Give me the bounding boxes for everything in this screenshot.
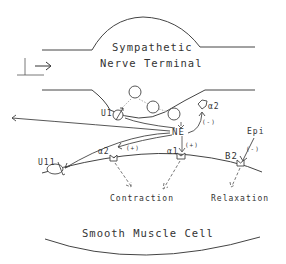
diagram-canvas [0, 0, 286, 264]
uptake1-carrier-icon [113, 110, 123, 120]
contraction-label: Contraction [110, 194, 174, 203]
smooth-muscle-title: Smooth Muscle Cell [82, 227, 214, 239]
alpha2-post-label: α2 [98, 147, 110, 156]
beta2-label: B2 [225, 151, 238, 161]
ne-vesicle-icon [168, 108, 180, 120]
presynaptic-alpha2-label: α2 [208, 102, 220, 111]
smooth-muscle-bottom-outline [45, 237, 260, 255]
relaxation-label: Relaxation [211, 194, 269, 203]
nerve-terminal-title: Sympathetic [112, 41, 193, 53]
ne-vesicle-icon [147, 101, 159, 113]
ne-vesicle-icon [129, 86, 141, 98]
alpha1-label: α1 [167, 147, 179, 156]
alpha1-effect: (+) [185, 141, 199, 148]
u1-label: U1 [101, 109, 113, 118]
presynaptic-alpha2-receptor-icon [198, 100, 207, 109]
epi-label: Epi [247, 127, 264, 136]
ne-released-label: NE [172, 127, 185, 137]
beta2-receptor-icon [237, 160, 244, 166]
action-potential-arrow-icon [17, 58, 51, 75]
alpha2-post-effect: (+) [126, 144, 140, 151]
u11-label: U11 [38, 158, 55, 167]
presynaptic-alpha2-effect: (-) [202, 118, 216, 125]
beta2-effect: (-) [246, 145, 260, 152]
nerve-terminal-subtitle: Nerve Terminal [100, 57, 203, 69]
alpha2-post-receptor-icon [110, 155, 117, 161]
